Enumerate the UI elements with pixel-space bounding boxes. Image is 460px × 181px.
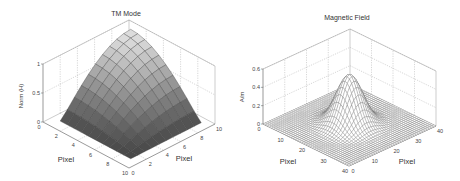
magnetic-field-x-tick: 40: [342, 168, 348, 174]
magnetic-field-y-tick: 40: [437, 128, 443, 134]
magnetic-field-title: Magnetic Field: [324, 14, 370, 22]
tm-mode-surface: [60, 29, 201, 158]
tm-mode-y-tick: 2: [149, 161, 152, 167]
magnetic-field-y-label: Pixel: [399, 157, 416, 166]
tm-mode-x-tick: 6: [89, 152, 92, 158]
tm-mode-title: TM Mode: [111, 10, 141, 17]
tm-mode-y-tick: 10: [216, 126, 222, 132]
tm-mode-y-tick: 4: [166, 152, 169, 158]
magnetic-field-z-tick: 0.4: [252, 84, 260, 90]
tm-mode-z-label: Norm (H): [18, 84, 24, 109]
tm-mode-y-label: Pixel: [176, 154, 193, 163]
magnetic-field-x-tick: 20: [299, 147, 305, 153]
magnetic-field-y-tick: 0: [351, 168, 354, 174]
tm-mode-y-tick: 6: [183, 144, 186, 150]
magnetic-field-x-tick: 0: [257, 126, 260, 132]
tm-mode-x-tick: 8: [106, 161, 109, 167]
magnetic-field-z-tick: 0.2: [252, 103, 260, 109]
tm-mode-y-tick: 0: [131, 170, 134, 176]
magnetic-field-z-tick: 0.6: [252, 66, 260, 72]
tm-mode-x-tick: 10: [122, 170, 128, 176]
tm-mode-plot: TM Mode 00.5102468100246810 Norm (H) Pix…: [18, 10, 222, 176]
tm-mode-z-tick: 0.5: [32, 90, 40, 96]
tm-mode-y-tick: 8: [200, 135, 203, 141]
tm-mode-x-label: Pixel: [58, 155, 75, 164]
tm-mode-x-tick: 0: [37, 124, 40, 130]
magnetic-field-plot: Magnetic Field 00.20.40.6010203040010203…: [239, 14, 443, 174]
tm-mode-z-tick: 1: [37, 61, 40, 67]
magnetic-field-x-label: Pixel: [280, 157, 297, 166]
magnetic-field-y-tick: 30: [415, 138, 421, 144]
magnetic-field-x-tick: 10: [277, 137, 283, 143]
figure: TM Mode 00.5102468100246810 Norm (H) Pix…: [0, 0, 460, 181]
magnetic-field-z-label: A/m: [239, 92, 245, 103]
tm-mode-x-tick: 2: [55, 133, 58, 139]
magnetic-field-mesh: [263, 75, 436, 166]
tm-mode-x-tick: 4: [72, 142, 75, 148]
magnetic-field-y-tick: 20: [393, 148, 399, 154]
magnetic-field-x-tick: 30: [320, 158, 326, 164]
magnetic-field-y-tick: 10: [372, 158, 378, 164]
